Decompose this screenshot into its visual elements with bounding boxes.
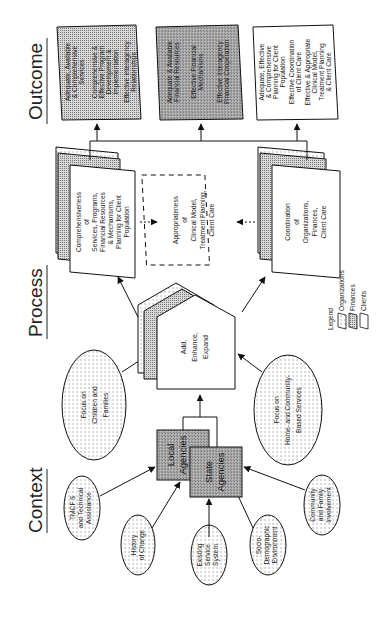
process-box-coordination: CoordinationofOrganizations,Finances,Cli… — [258, 147, 340, 278]
process-box-appropriateness: AppropriatenessofClinical Model,Treatmen… — [142, 175, 215, 265]
svg-text:Organizations: Organizations — [338, 270, 346, 311]
svg-text:Communityand FamilyInvolvement: Communityand FamilyInvolvement — [309, 487, 332, 523]
column-header-outcome: Outcome — [25, 38, 47, 124]
svg-text:ExistingServiceSystem: ExistingServiceSystem — [196, 543, 220, 566]
outcome-box-organizations: Adequate, Available& ComprehensiveServic… — [57, 25, 141, 120]
focus-home-community: Focus onHome- and Community-Based Servic… — [254, 355, 322, 465]
legend-swatch-finances: Finances — [349, 284, 357, 329]
influence-history: Historyof Change — [121, 515, 155, 575]
column-header-process: Process — [25, 265, 47, 339]
legend-title: Legend — [327, 308, 335, 330]
outcome-box-clients: Adequate, Effective& ComprehensivePlanni… — [253, 25, 338, 120]
state-agencies-box: StateAgencies — [190, 447, 242, 497]
legend: Legend Organizations Finances Clients — [327, 270, 368, 330]
legend-swatch-clients: Clients — [360, 290, 368, 329]
focus-children-families: Focus onChildren andFamilies — [62, 350, 126, 460]
diagram-canvas: Context Process Outcome TMCF $and Techni… — [0, 0, 386, 617]
svg-text:Finances: Finances — [349, 284, 356, 311]
svg-text:Context: Context — [25, 467, 46, 533]
column-header-context: Context — [25, 467, 47, 533]
legend-swatch-organizations: Organizations — [338, 270, 346, 329]
svg-text:Adequate, Available& Comprehen: Adequate, Available& ComprehensiveServic… — [64, 41, 138, 103]
influence-community-family: Communityand FamilyInvolvement — [304, 475, 340, 535]
svg-text:Outcome: Outcome — [25, 43, 46, 120]
influence-tmcf: TMCF $and TechnicalAssistance — [64, 476, 100, 540]
influence-socio-demographic: Socio-DemographicEnvironment — [250, 515, 286, 575]
outcome-box-finances: Adequate & AvailableFinancial ResourcesE… — [156, 25, 243, 120]
svg-text:Clients: Clients — [360, 290, 367, 311]
svg-text:CoordinationofOrganizations,Fi: CoordinationofOrganizations,Finances,Cli… — [284, 201, 327, 244]
process-box-comprehensiveness: ComprehensivenessofServices, Programs,Fi… — [56, 147, 135, 278]
svg-text:Process: Process — [25, 268, 46, 337]
process-core-house: Add,Enhance,Expand — [138, 283, 235, 389]
